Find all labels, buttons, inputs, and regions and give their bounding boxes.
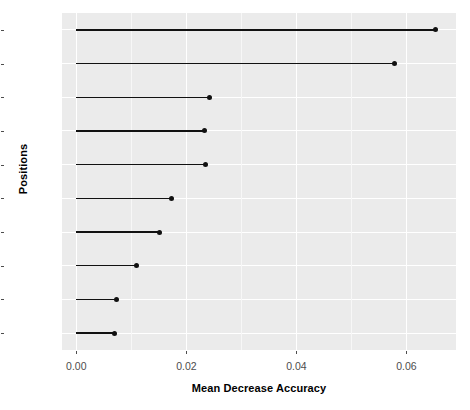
y-axis-title: Positions — [17, 109, 29, 229]
y-tick-mark — [1, 64, 4, 65]
y-tick-mark — [1, 131, 4, 132]
plot-panel — [62, 13, 456, 350]
lollipop-segment — [76, 299, 116, 300]
x-tick-mark — [296, 351, 297, 354]
lollipop-segment — [76, 231, 159, 232]
y-tick-mark — [1, 30, 4, 31]
y-tick-mark — [1, 232, 4, 233]
mean-decrease-accuracy-chart: Positions Mean Decrease Accuracy P54P46P… — [0, 0, 470, 410]
data-point-p10 — [203, 162, 208, 167]
lollipop-segment — [76, 29, 435, 30]
gridline-vertical-major — [406, 13, 407, 350]
data-point-p33 — [202, 128, 207, 133]
lollipop-segment — [76, 265, 136, 266]
data-point-p54 — [433, 27, 438, 32]
x-tick-mark — [186, 351, 187, 354]
data-point-p46 — [392, 61, 397, 66]
lollipop-segment — [76, 332, 114, 333]
data-point-p71 — [169, 196, 174, 201]
y-tick-mark — [1, 198, 4, 199]
data-point-p82 — [207, 95, 212, 100]
lollipop-segment — [76, 97, 209, 98]
lollipop-segment — [76, 63, 394, 64]
data-point-p76 — [134, 263, 139, 268]
lollipop-segment — [76, 198, 171, 199]
y-tick-mark — [1, 299, 4, 300]
x-tick-label-0-02: 0.02 — [156, 360, 216, 372]
x-tick-label-0-00: 0.00 — [46, 360, 106, 372]
lollipop-segment — [76, 164, 205, 165]
x-tick-mark — [76, 351, 77, 354]
lollipop-segment — [76, 130, 204, 131]
data-point-p47 — [114, 297, 119, 302]
data-point-p32 — [112, 331, 117, 336]
gridline-horizontal — [62, 333, 456, 334]
x-axis-title: Mean Decrease Accuracy — [62, 382, 456, 394]
y-tick-mark — [1, 333, 4, 334]
x-tick-mark — [406, 351, 407, 354]
x-tick-label-0-06: 0.06 — [376, 360, 436, 372]
data-point-p84 — [157, 230, 162, 235]
y-tick-mark — [1, 266, 4, 267]
x-tick-label-0-04: 0.04 — [266, 360, 326, 372]
y-tick-mark — [1, 165, 4, 166]
gridline-horizontal — [62, 299, 456, 300]
y-tick-mark — [1, 97, 4, 98]
